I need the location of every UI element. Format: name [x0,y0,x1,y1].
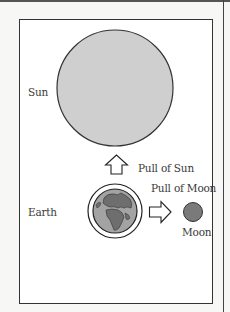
diagram-canvas [0,0,230,312]
earth-label: Earth [28,206,57,218]
pull-of-sun-label: Pull of Sun [138,162,194,174]
arrow-up-outline-icon [106,155,128,174]
sun-label: Sun [28,86,48,98]
globe-icon [88,184,142,238]
arrow-right-outline-icon [150,202,172,223]
sun-circle [57,30,173,146]
moon-label: Moon [182,226,211,238]
pull-of-moon-label: Pull of Moon [151,182,216,194]
moon-circle [184,203,203,222]
